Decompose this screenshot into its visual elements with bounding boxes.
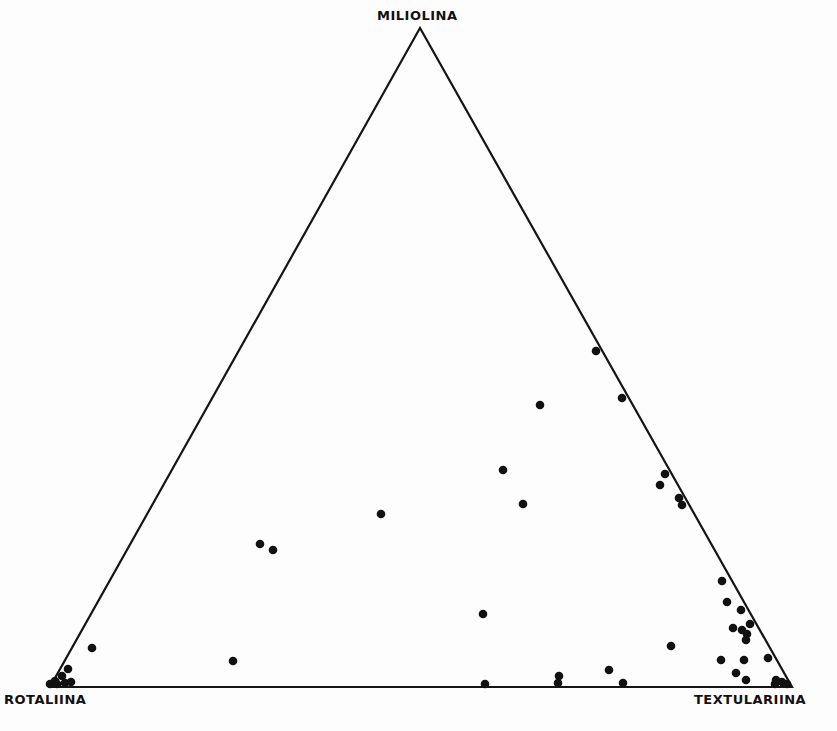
data-point	[764, 654, 773, 663]
data-points	[46, 347, 792, 689]
data-point	[554, 679, 563, 688]
data-point	[229, 657, 238, 666]
data-point	[732, 669, 741, 678]
data-point	[618, 394, 627, 403]
ternary-plot	[0, 0, 837, 731]
data-point	[742, 676, 751, 685]
data-point	[667, 642, 676, 651]
data-point	[499, 466, 508, 475]
data-point	[678, 501, 687, 510]
vertex-label-rotaliina: ROTALIINA	[4, 692, 86, 707]
data-point	[269, 546, 278, 555]
data-point	[723, 598, 732, 607]
data-point	[481, 680, 490, 689]
data-point	[619, 679, 628, 688]
data-point	[740, 656, 749, 665]
data-point	[88, 644, 97, 653]
data-point	[717, 656, 726, 665]
data-point	[771, 680, 780, 689]
data-point	[53, 680, 62, 689]
data-point	[656, 481, 665, 490]
data-point	[718, 577, 727, 586]
data-point	[592, 347, 601, 356]
data-point	[64, 665, 73, 674]
data-point	[742, 636, 751, 645]
ternary-triangle	[50, 28, 792, 687]
data-point	[729, 624, 738, 633]
data-point	[256, 540, 265, 549]
data-point	[536, 401, 545, 410]
data-point	[377, 510, 386, 519]
data-point	[67, 678, 76, 687]
vertex-label-miliolina: MILIOLINA	[377, 8, 458, 23]
data-point	[783, 680, 792, 689]
data-point	[519, 500, 528, 509]
data-point	[737, 606, 746, 615]
vertex-label-textulariina: TEXTULARIINA	[694, 692, 806, 707]
data-point	[746, 620, 755, 629]
data-point	[661, 470, 670, 479]
data-point	[605, 666, 614, 675]
data-point	[479, 610, 488, 619]
